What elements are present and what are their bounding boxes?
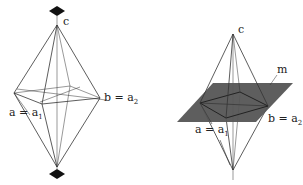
left-a-label: a = a1 (9, 106, 43, 121)
right-m-label: m (277, 63, 288, 76)
bottom-twofold-marker-icon (49, 169, 65, 179)
right-a-label: a = a1 (195, 123, 229, 138)
right-figure (177, 34, 293, 180)
left-b-label: b = a2 (104, 91, 138, 106)
right-c-label: c (238, 23, 244, 36)
diagram-canvas: c a = a1 b = a2 c m a = a1 b = a2 (0, 0, 303, 185)
left-figure (14, 6, 106, 179)
left-c-label: c (63, 15, 69, 28)
right-b-label: b = a2 (268, 112, 302, 127)
